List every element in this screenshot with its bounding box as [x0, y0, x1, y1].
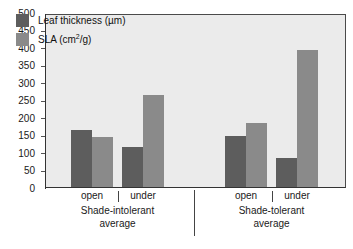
- bar-leaf-thickness-0: [71, 130, 92, 187]
- legend-label-sla-pre: SLA (cm: [38, 34, 76, 45]
- group-label-line2: average: [81, 217, 154, 230]
- group-labels: Shade-intolerantaverageShade-tolerantave…: [46, 204, 346, 244]
- y-tick-label-200: 200: [18, 114, 35, 124]
- y-tick-label-100: 100: [18, 149, 35, 159]
- x-tick-label-3: under: [284, 190, 310, 202]
- y-tick-label-250: 250: [18, 96, 35, 106]
- bar-leaf-thickness-2: [225, 136, 246, 187]
- bar-leaf-thickness-3: [276, 158, 297, 187]
- legend-swatch-sla: [16, 33, 29, 46]
- group-label-line1: Shade-intolerant: [81, 205, 154, 216]
- legend-label-sla: SLA (cm2/g): [38, 34, 91, 45]
- y-tick-label-350: 350: [18, 61, 35, 71]
- group-label-shade-intolerant: Shade-intolerantaverage: [81, 204, 154, 230]
- x-tick-label-0: open: [81, 190, 103, 202]
- bar-chart: 500 450 400 350 300 250 200 150 100 50 0…: [0, 0, 353, 249]
- chart-legend: Leaf thickness (µm) SLA (cm2/g): [16, 12, 125, 50]
- bar-sla-0: [92, 137, 113, 187]
- legend-item-sla: SLA (cm2/g): [16, 31, 125, 48]
- group-divider: [194, 190, 195, 236]
- legend-label-sla-post: /g): [80, 34, 92, 45]
- x-separator-1: [272, 191, 273, 202]
- x-tick-label-2: open: [235, 190, 257, 202]
- group-label-line2: average: [239, 217, 305, 230]
- group-label-line1: Shade-tolerant: [239, 205, 305, 216]
- legend-item-leaf-thickness: Leaf thickness (µm): [16, 12, 125, 29]
- bar-sla-3: [297, 50, 318, 187]
- y-tick-label-150: 150: [18, 131, 35, 141]
- bar-sla-2: [246, 123, 267, 187]
- legend-label-leaf-thickness: Leaf thickness (µm): [38, 15, 125, 26]
- x-separator-0: [118, 191, 119, 202]
- legend-swatch-leaf-thickness: [16, 14, 29, 27]
- y-tick-label-0: 0: [29, 184, 35, 194]
- x-tick-label-1: under: [130, 190, 156, 202]
- y-tick-label-300: 300: [18, 79, 35, 89]
- x-axis-labels: openunderopenunder: [46, 190, 346, 204]
- bar-sla-1: [143, 95, 164, 187]
- group-label-shade-tolerant: Shade-tolerantaverage: [239, 204, 305, 230]
- bar-leaf-thickness-1: [122, 147, 143, 187]
- y-tick-label-50: 50: [24, 166, 35, 176]
